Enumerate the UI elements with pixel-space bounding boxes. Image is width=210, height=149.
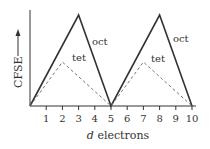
- y-axis-title: CFSE: [12, 29, 25, 88]
- arrowhead-icon: [16, 29, 21, 36]
- tick-label: 9: [173, 113, 179, 124]
- tick-label: 2: [59, 113, 65, 124]
- x-axis-title: d electrons: [87, 129, 150, 142]
- tet-label: tet: [72, 52, 86, 63]
- oct-label: oct: [92, 36, 108, 47]
- tick-label: 8: [156, 113, 162, 124]
- tet-label: tet: [151, 53, 165, 64]
- cfse-chart: 1 2 3 4 5 6 7 8 9 10 d electrons CFSE oc…: [0, 0, 210, 149]
- tick-label: 4: [92, 113, 98, 124]
- x-tick-labels: 1 2 3 4 5 6 7 8 9 10: [43, 113, 198, 124]
- series-tet: [30, 62, 192, 106]
- tick-label: 5: [108, 113, 114, 124]
- tick-label: 1: [43, 113, 49, 124]
- x-ticks: [46, 106, 192, 110]
- series-oct: [30, 15, 192, 106]
- tick-label: 10: [186, 113, 199, 124]
- tick-label: 3: [75, 113, 81, 124]
- oct-label: oct: [173, 33, 189, 44]
- tick-label: 7: [140, 113, 146, 124]
- y-axis-label: CFSE: [12, 56, 25, 88]
- tick-label: 6: [124, 113, 130, 124]
